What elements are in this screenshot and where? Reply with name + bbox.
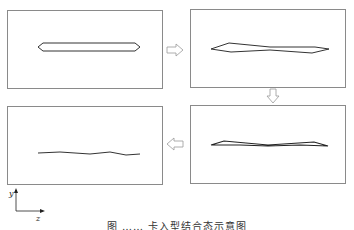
panel-2-twisted-shape — [211, 43, 329, 53]
panel-1-hexagon-shape — [38, 43, 140, 51]
panel-3 — [191, 106, 346, 184]
panel-2 — [191, 10, 346, 88]
panel-1-frame — [8, 11, 163, 89]
figure-caption: 图 …… 卡入型结合态示意图 — [0, 218, 354, 230]
y-axis-label: y — [8, 189, 14, 198]
panel-3-flattened-shape — [211, 141, 328, 146]
panel-4 — [8, 107, 163, 185]
panel-1 — [8, 11, 163, 89]
panel-4-frame — [8, 107, 163, 185]
arrow-right-icon — [167, 44, 183, 56]
z-axis-arrowhead — [40, 209, 45, 213]
panel-4-collapsed-line — [38, 152, 140, 155]
y-axis-arrowhead — [14, 188, 18, 193]
arrow-left-icon — [167, 138, 183, 150]
diagram-canvas: y z — [0, 0, 354, 230]
arrow-down-icon — [267, 89, 279, 103]
